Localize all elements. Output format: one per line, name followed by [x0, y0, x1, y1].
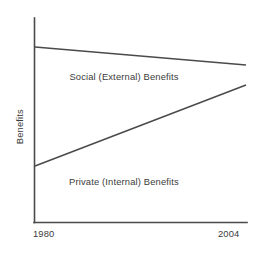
y-axis-title: Benefits [15, 95, 24, 159]
social-benefits-label: Social (External) Benefits [0, 72, 248, 81]
x-axis-tick-label-end: 2004 [218, 229, 239, 238]
private-benefits-label: Private (Internal) Benefits [0, 177, 248, 186]
chart-plot-area [0, 0, 258, 258]
private-benefits-line [35, 85, 246, 166]
benefits-line-chart: Social (External) Benefits Private (Inte… [0, 0, 258, 258]
x-axis-tick-label-start: 1980 [33, 229, 54, 238]
social-benefits-line [35, 47, 246, 65]
